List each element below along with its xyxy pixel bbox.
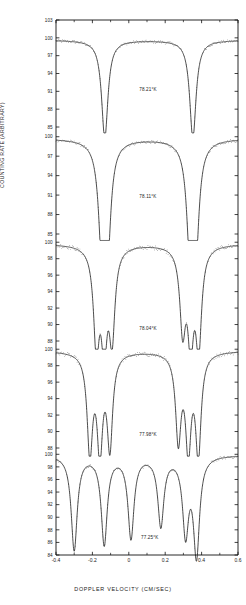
data-point	[115, 381, 116, 382]
data-point	[104, 545, 105, 546]
data-point	[80, 43, 81, 44]
data-point	[71, 247, 72, 248]
data-point	[155, 43, 156, 44]
data-point	[151, 140, 152, 141]
data-point	[123, 258, 124, 259]
data-point	[206, 157, 207, 158]
data-point	[173, 44, 174, 45]
data-point	[199, 447, 200, 448]
data-point	[171, 369, 172, 370]
data-point	[215, 42, 216, 43]
data-point	[238, 354, 239, 355]
data-point	[124, 257, 125, 258]
data-point	[70, 357, 71, 358]
data-point	[229, 351, 230, 352]
data-point	[102, 104, 103, 105]
data-point	[238, 41, 239, 42]
data-point	[216, 459, 217, 460]
temperature-annotation: 77.98°K	[139, 432, 157, 437]
data-point	[214, 250, 215, 251]
data-point	[178, 479, 179, 480]
data-point	[208, 261, 209, 262]
data-point	[199, 204, 200, 205]
data-point	[66, 354, 67, 355]
data-point	[83, 43, 84, 44]
data-point	[211, 45, 212, 46]
data-point	[154, 143, 155, 144]
data-point	[137, 478, 138, 479]
data-point	[141, 42, 142, 43]
data-point	[130, 251, 131, 252]
data-point	[193, 415, 194, 416]
data-point	[101, 508, 102, 509]
data-point	[133, 513, 134, 514]
data-point	[219, 43, 220, 44]
data-point	[121, 362, 122, 363]
data-point	[225, 459, 226, 460]
data-point	[174, 45, 175, 46]
data-point	[164, 356, 165, 357]
data-point	[201, 56, 202, 57]
data-point	[61, 141, 62, 142]
data-point	[178, 287, 179, 288]
data-point	[184, 532, 185, 533]
data-point	[214, 359, 215, 360]
data-point	[177, 45, 178, 46]
data-point	[183, 411, 184, 412]
data-point	[129, 251, 130, 252]
fit-curve	[56, 246, 238, 350]
data-point	[181, 49, 182, 50]
data-point	[110, 480, 111, 481]
y-tick-label: 100	[45, 134, 53, 139]
data-point	[158, 41, 159, 42]
data-point	[150, 142, 151, 143]
data-point	[80, 142, 81, 143]
data-point	[173, 470, 174, 471]
data-point	[141, 248, 142, 249]
data-point	[139, 41, 140, 42]
data-point	[90, 155, 91, 156]
data-point	[153, 355, 154, 356]
data-point	[118, 368, 119, 369]
data-point	[166, 143, 167, 144]
data-point	[83, 147, 84, 148]
data-point	[165, 358, 166, 359]
data-point	[118, 156, 119, 157]
data-point	[175, 471, 176, 472]
data-point	[205, 374, 206, 375]
data-point	[119, 468, 120, 469]
data-point	[179, 156, 180, 157]
data-point	[74, 355, 75, 356]
data-point	[170, 147, 171, 148]
data-point	[164, 496, 165, 497]
data-point	[161, 43, 162, 44]
data-point	[59, 40, 60, 41]
data-point	[224, 143, 225, 144]
data-point	[226, 142, 227, 143]
data-point	[66, 41, 67, 42]
data-point	[185, 424, 186, 425]
data-point	[73, 142, 74, 143]
data-point	[114, 173, 115, 174]
data-point	[180, 160, 181, 161]
data-point	[106, 340, 107, 341]
data-point	[223, 40, 224, 41]
data-point	[63, 353, 64, 354]
data-point	[82, 472, 83, 473]
data-point	[97, 478, 98, 479]
data-point	[178, 155, 179, 156]
data-point	[237, 246, 238, 247]
data-point	[196, 433, 197, 434]
data-point	[86, 408, 87, 409]
data-point	[189, 90, 190, 91]
data-point	[200, 426, 201, 427]
data-point	[89, 46, 90, 47]
data-point	[127, 145, 128, 146]
data-point	[91, 467, 92, 468]
data-point	[155, 143, 156, 144]
data-point	[124, 358, 125, 359]
data-point	[186, 539, 187, 540]
data-point	[224, 456, 225, 457]
data-point	[190, 105, 191, 106]
data-point	[64, 356, 65, 357]
